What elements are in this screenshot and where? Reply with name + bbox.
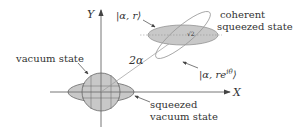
pointer-squeezed-vacuum — [135, 96, 150, 102]
pointer-alpha-re — [183, 62, 198, 68]
coherent-label-2: squeezed state — [217, 21, 293, 32]
x-axis-label: X — [232, 86, 242, 99]
pointer-alpha-r — [143, 20, 155, 27]
phase-space-diagram: √2 Y X vacuum state squeezed vacuum stat… — [0, 0, 306, 132]
ket-alpha-r-label: |α, r⟩ — [116, 10, 141, 22]
squeezed-vacuum-label-2: vacuum state — [149, 111, 218, 122]
displacement-label: 2α — [128, 54, 144, 67]
y-axis-label: Y — [87, 8, 96, 21]
pointer-vacuum — [78, 63, 88, 74]
sqrt2-label: √2 — [187, 30, 195, 37]
squeezed-vacuum-label-1: squeezed — [150, 99, 198, 110]
vacuum-state-label: vacuum state — [15, 53, 84, 64]
ket-alpha-re-label: |α, reiθ⟩ — [199, 68, 237, 81]
coherent-label-1: coherent — [220, 9, 265, 20]
